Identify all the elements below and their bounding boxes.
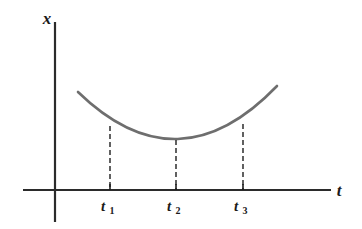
- plot-canvas: x t t 1 t 2 t 3: [0, 0, 362, 229]
- tick-label-t2: t: [167, 198, 172, 214]
- vertical-axis-label: x: [42, 9, 52, 28]
- displacement-curve: [78, 86, 277, 139]
- tick-subscript-t2: 2: [176, 205, 181, 216]
- tick-subscript-t3: 3: [243, 205, 248, 216]
- tick-label-t1: t: [101, 198, 106, 214]
- physics-figure: x t t 1 t 2 t 3: [0, 0, 362, 229]
- tick-label-t3: t: [234, 198, 239, 214]
- tick-subscript-t1: 1: [110, 205, 115, 216]
- horizontal-axis-label: t: [337, 181, 343, 200]
